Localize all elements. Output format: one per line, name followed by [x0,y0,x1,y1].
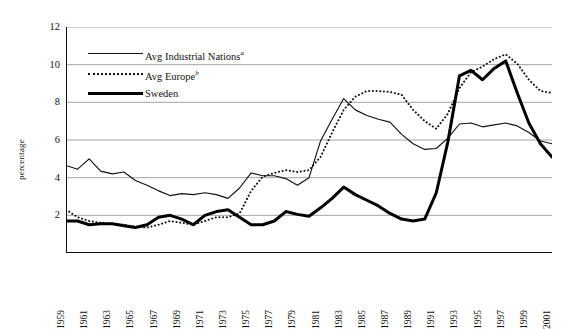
x-axis-tick-1979: 1979 [287,283,297,329]
legend-label: Avg Europeb [145,64,199,86]
x-axis-tick-1981: 1981 [311,283,321,329]
x-axis-tick-1997: 1997 [496,283,506,329]
legend-item-sweden: Sweden [88,84,268,104]
x-axis-tick-2001: 2001 [542,283,552,329]
legend-swatch-icon [88,53,143,54]
x-axis-tick-1967: 1967 [149,283,159,329]
legend-item-avg-europe: Avg Europeb [88,64,268,84]
legend-item-avg-industrial-nations: Avg Industrial Nationsa [88,44,268,64]
x-axis-tick-1989: 1989 [403,283,413,329]
x-axis-tick-1991: 1991 [426,283,436,329]
y-axis-title: percentage [2,18,12,108]
x-axis-tick-1993: 1993 [449,283,459,329]
y-axis-tick-12: 12 [38,22,60,32]
x-axis-tick-1987: 1987 [380,283,390,329]
x-axis-tick-1961: 1961 [79,283,89,329]
y-axis-tick-10: 10 [38,60,60,70]
y-axis-tick-2: 2 [38,210,60,220]
x-axis-tick-1985: 1985 [357,283,367,329]
x-axis-tick-labels: 1959196119631965196719691971197319751977… [66,258,552,306]
x-axis-tick-1969: 1969 [172,283,182,329]
legend-label: Avg Industrial Nationsa [145,44,244,66]
y-axis-tick-8: 8 [38,97,60,107]
y-axis-tick-6: 6 [38,135,60,145]
chart-legend: Avg Industrial NationsaAvg EuropebSweden [88,44,268,104]
legend-footnote-marker: b [195,69,199,77]
legend-swatch-icon [88,92,143,95]
x-axis-tick-1965: 1965 [125,283,135,329]
legend-footnote-marker: a [240,49,244,57]
x-axis-tick-1999: 1999 [519,283,529,329]
legend-label: Sweden [145,84,178,103]
x-axis-tick-1959: 1959 [56,283,66,329]
x-axis-tick-1995: 1995 [473,283,483,329]
x-axis-tick-1963: 1963 [102,283,112,329]
x-axis-tick-1983: 1983 [334,283,344,329]
x-axis-tick-1975: 1975 [241,283,251,329]
x-axis-tick-1973: 1973 [218,283,228,329]
x-axis-tick-1971: 1971 [195,283,205,329]
x-axis-tick-1977: 1977 [264,283,274,329]
y-axis-tick-labels: 24681012 [36,0,60,306]
series-line-avg-industrial-nations [66,99,552,199]
legend-swatch-icon [88,73,143,75]
y-axis-tick-4: 4 [38,173,60,183]
